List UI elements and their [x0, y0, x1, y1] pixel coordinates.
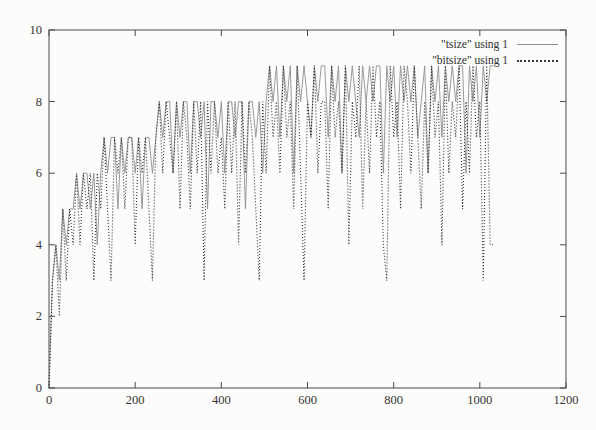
legend-line-sample-dotted [517, 60, 558, 62]
y-tick-label: 6 [36, 166, 42, 180]
y-tick-label: 0 [36, 381, 42, 395]
legend-entry-tsize: "tsize" using 1 [441, 38, 558, 51]
y-tick-label: 4 [36, 238, 43, 252]
bitsize-series-line [49, 66, 494, 388]
x-tick-label: 600 [298, 393, 317, 407]
legend: "tsize" using 1 "bitsize" using 1 [432, 38, 558, 67]
legend-label-tsize: "tsize" using 1 [441, 38, 508, 51]
tsize-series-line [49, 66, 494, 388]
x-tick-label: 800 [384, 393, 403, 407]
x-tick-label: 0 [46, 393, 52, 407]
y-tick-label: 8 [36, 95, 42, 109]
gnuplot-figure: 0200400600800100012000246810 "tsize" usi… [0, 0, 596, 430]
x-tick-label: 200 [126, 393, 145, 407]
y-tick-label: 10 [30, 23, 43, 37]
legend-line-sample-solid [517, 44, 558, 45]
x-tick-label: 1200 [554, 393, 579, 407]
x-tick-label: 1000 [467, 393, 492, 407]
legend-label-bitsize: "bitsize" using 1 [432, 54, 508, 67]
x-tick-label: 400 [212, 393, 231, 407]
y-tick-label: 2 [36, 309, 42, 323]
legend-entry-bitsize: "bitsize" using 1 [432, 54, 558, 67]
